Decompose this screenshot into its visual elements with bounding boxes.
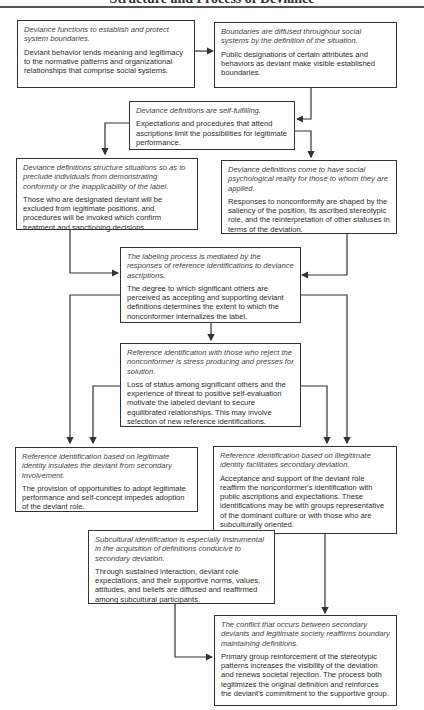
box-body: Responses to nonconformity are shaped by… xyxy=(228,197,390,234)
box-heading: Subcultural identification is especially… xyxy=(95,535,268,563)
box-stress-producing: Reference identification with those who … xyxy=(120,343,301,427)
box-heading: The labeling process is mediated by the … xyxy=(127,252,294,280)
box-body: Expectations and procedures that attend … xyxy=(136,119,288,147)
box-body: Through sustained interaction, deviant r… xyxy=(95,567,268,604)
box-heading: Reference identification with those who … xyxy=(127,348,294,376)
box-body: Those who are designated deviant will be… xyxy=(23,195,191,232)
box-illegitimate-identity: Reference identification based on illegi… xyxy=(213,446,397,534)
box-heading: Reference identification based on legiti… xyxy=(22,452,191,480)
box-body: The provision of opportunities to adopt … xyxy=(22,484,191,512)
box-body: Deviant behavior lends meaning and legit… xyxy=(24,48,188,76)
box-heading: Deviance functions to establish and prot… xyxy=(24,25,188,44)
box-body: Primary group reinforcement of the stere… xyxy=(221,652,390,698)
box-body: Loss of status among significant others … xyxy=(127,380,294,426)
box-heading: Deviance definitions structure situation… xyxy=(23,163,191,191)
box-body: Acceptance and support of the deviant ro… xyxy=(220,474,390,530)
box-structure-situations: Deviance definitions structure situation… xyxy=(16,158,198,230)
box-legitimate-identity: Reference identification based on legiti… xyxy=(15,447,198,512)
box-deviance-functions: Deviance functions to establish and prot… xyxy=(17,20,195,88)
box-heading: Reference identification based on illegi… xyxy=(220,451,390,470)
box-boundaries-diffused: Boundaries are diffused throughout socia… xyxy=(214,22,397,88)
box-heading: Deviance definitions come to have social… xyxy=(228,165,390,193)
box-subcultural-identification: Subcultural identification is especially… xyxy=(88,530,275,604)
box-body: Public designations of certain attribute… xyxy=(221,50,390,78)
box-heading: The conflict that occurs between seconda… xyxy=(221,620,390,648)
box-heading: Deviance definitions are self-fulfilling… xyxy=(136,106,288,115)
box-heading: Boundaries are diffused throughout socia… xyxy=(221,27,390,46)
box-self-fulfilling: Deviance definitions are self-fulfilling… xyxy=(129,101,295,150)
box-body: The degree to which significant others a… xyxy=(127,284,294,321)
box-social-psychological-reality: Deviance definitions come to have social… xyxy=(221,160,397,234)
box-conflict-reaffirms-boundaries: The conflict that occurs between seconda… xyxy=(214,615,397,706)
box-labeling-process: The labeling process is mediated by the … xyxy=(120,247,301,323)
